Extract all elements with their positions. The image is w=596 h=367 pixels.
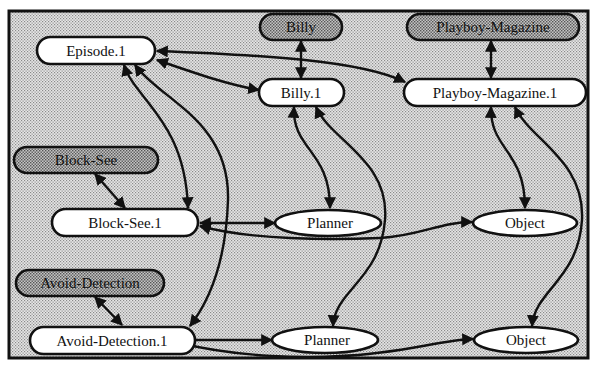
- node-episode-1-label: Episode.1: [66, 43, 126, 59]
- node-block-see[interactable]: Block-See: [14, 147, 158, 173]
- node-block-see-label: Block-See: [55, 152, 118, 168]
- node-playboy-magazine-1[interactable]: Playboy-Magazine.1: [404, 79, 586, 106]
- node-playboy-magazine-label: Playboy-Magazine: [436, 19, 550, 35]
- node-billy-label: Billy: [286, 19, 317, 35]
- node-block-see-1-label: Block-See.1: [88, 215, 162, 231]
- node-block-see-1[interactable]: Block-See.1: [52, 209, 198, 236]
- node-playboy-magazine-1-label: Playboy-Magazine.1: [433, 85, 558, 101]
- node-planner-top-label: Planner: [307, 215, 353, 231]
- node-avoid-detection-label: Avoid-Detection: [40, 275, 140, 291]
- episode-graph-diagram: Billy Playboy-Magazine Episode.1 Billy.1…: [0, 0, 596, 367]
- node-planner-top[interactable]: Planner: [275, 210, 381, 236]
- node-episode-1[interactable]: Episode.1: [37, 37, 155, 64]
- node-billy[interactable]: Billy: [260, 14, 342, 40]
- node-avoid-detection-1[interactable]: Avoid-Detection.1: [30, 327, 195, 354]
- node-billy-1-label: Billy.1: [281, 85, 321, 101]
- node-object-bottom-label: Object: [506, 332, 547, 348]
- node-object-bottom[interactable]: Object: [474, 327, 578, 353]
- node-avoid-detection-1-label: Avoid-Detection.1: [57, 333, 168, 349]
- node-planner-bottom[interactable]: Planner: [272, 327, 378, 353]
- node-avoid-detection[interactable]: Avoid-Detection: [16, 270, 164, 296]
- node-billy-1[interactable]: Billy.1: [259, 79, 344, 106]
- node-object-top-label: Object: [505, 215, 546, 231]
- node-object-top[interactable]: Object: [473, 210, 577, 236]
- node-playboy-magazine[interactable]: Playboy-Magazine: [407, 14, 579, 40]
- node-planner-bottom-label: Planner: [304, 332, 350, 348]
